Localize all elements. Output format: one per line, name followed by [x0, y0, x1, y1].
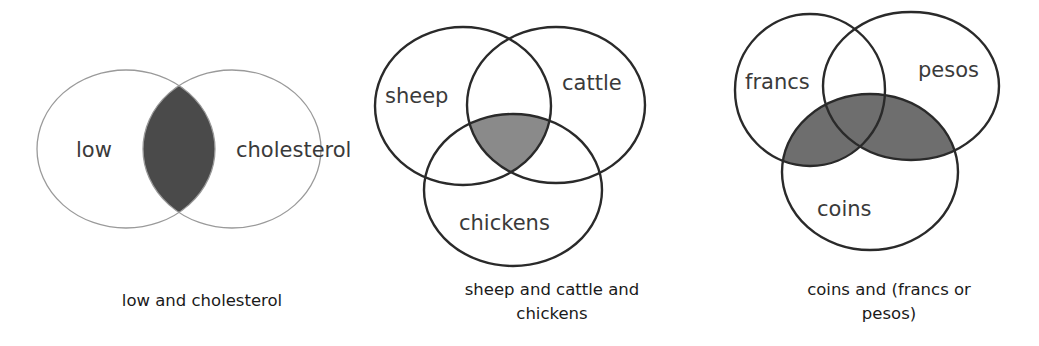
set-label-francs: francs [745, 70, 810, 94]
caption-line-1: sheep and cattle and [465, 280, 640, 299]
set-circle-cattle [467, 27, 645, 183]
set-label-cholesterol: cholesterol [236, 138, 351, 162]
venn-coins-francs-pesos: francs pesos coins coins and (francs or … [735, 12, 999, 323]
caption-line-2: pesos) [862, 304, 916, 323]
set-label-cattle: cattle [562, 71, 622, 95]
caption-line-1: coins and (francs or [807, 280, 971, 299]
venn-diagrams-canvas: low cholesterol low and cholesterol shee… [0, 0, 1039, 346]
caption-line-1: low and cholesterol [122, 291, 282, 310]
caption-line-2: chickens [516, 304, 587, 323]
venn-sheep-cattle-chickens: sheep cattle chickens sheep and cattle a… [375, 27, 645, 323]
set-label-low: low [76, 138, 112, 162]
set-label-chickens: chickens [459, 211, 550, 235]
venn-low-cholesterol: low cholesterol low and cholesterol [37, 70, 351, 310]
set-label-sheep: sheep [385, 84, 448, 108]
set-label-coins: coins [817, 197, 871, 221]
set-label-pesos: pesos [918, 58, 979, 82]
